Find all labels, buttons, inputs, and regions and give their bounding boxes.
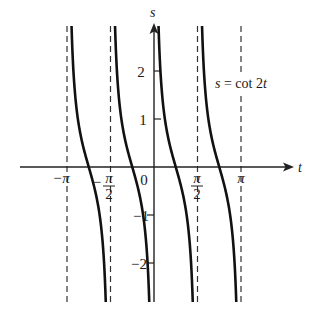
cot-branch-curve <box>159 26 193 302</box>
equation-rhs: = cot 2 <box>220 76 263 91</box>
t-axis-label: t <box>298 160 303 175</box>
svg-text:s = cot 2t: s = cot 2t <box>215 76 268 91</box>
fraction-numerator: π <box>193 170 201 186</box>
fraction-numerator: π <box>105 170 113 186</box>
cot-branch-curve <box>202 26 236 302</box>
fraction-denominator: 2 <box>105 186 113 202</box>
equation-annotation: s = cot 2t <box>212 76 278 92</box>
s-tick-label-minus-2: −2 <box>131 256 147 272</box>
t-tick-label-pi: π <box>237 170 245 186</box>
cot-branch-curve <box>72 26 106 302</box>
s-tick-label-1: 1 <box>139 112 147 128</box>
s-tick-label-minus-1: −1 <box>133 208 149 224</box>
cot-2t-graph: t s 2 1 −1 −2 −π − π 2 0 π 2 π s = cot 2… <box>0 0 315 316</box>
s-tick-label-2: 2 <box>137 64 145 80</box>
fraction-denominator: 2 <box>193 186 201 202</box>
t-tick-label-neg-pi: −π <box>52 170 70 186</box>
s-axis-label: s <box>150 5 156 20</box>
t-tick-label-half-pi: π 2 <box>191 170 203 202</box>
t-tick-label-zero: 0 <box>140 172 148 188</box>
